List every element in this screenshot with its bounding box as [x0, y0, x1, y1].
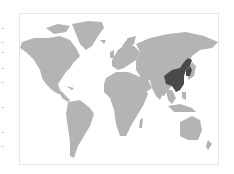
south-america	[66, 100, 94, 158]
land-masses	[20, 21, 218, 158]
indonesia	[168, 104, 196, 112]
madagascar	[139, 118, 143, 128]
uk	[110, 50, 114, 58]
arctic-islands	[46, 24, 70, 34]
australia	[180, 116, 202, 140]
india	[152, 82, 164, 100]
north-america	[20, 36, 80, 94]
europe	[112, 44, 140, 70]
greenland	[72, 21, 104, 50]
iceland	[100, 40, 106, 44]
southeast-asia	[166, 90, 176, 104]
caribbean	[66, 86, 74, 90]
philippines	[182, 92, 186, 100]
new-zealand	[206, 140, 212, 150]
central-america	[58, 90, 70, 102]
world-map[interactable]	[0, 0, 234, 174]
